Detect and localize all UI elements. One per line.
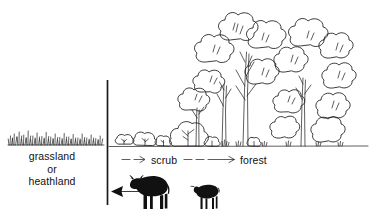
succession-diagram: .ink { fill: none; stroke: #1a1a1a; stro… (0, 0, 370, 221)
label-line-grassland: grassland (0, 150, 104, 163)
succession-arrow-to-forest (184, 157, 235, 163)
scrub-label: scrub (151, 154, 177, 167)
label-line-heathland: heathland (0, 175, 104, 188)
grass-tufts (8, 131, 104, 145)
scrub-bushes (115, 122, 343, 147)
sheep-silhouette (190, 185, 220, 209)
scene-drawing: .ink { fill: none; stroke: #1a1a1a; stro… (0, 0, 370, 221)
label-line-or: or (0, 163, 104, 176)
forest-label: forest (240, 154, 267, 167)
forest-trees (178, 13, 356, 146)
succession-arrow-to-scrub (122, 157, 145, 163)
grassland-heathland-label: grassland or heathland (0, 150, 104, 188)
ground-line (109, 146, 368, 147)
